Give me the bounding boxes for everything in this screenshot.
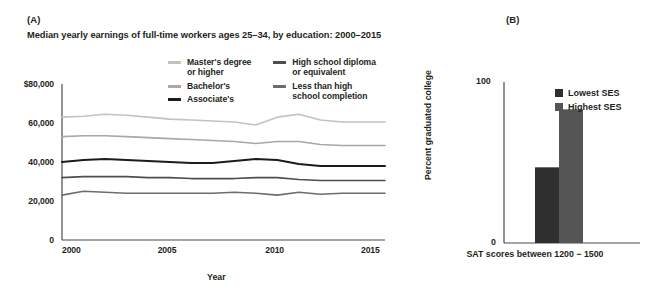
chart-a-ytick-20000: 20,000 [2, 196, 54, 206]
chart-a-svg [0, 0, 400, 292]
legend-item-lowest-ses: Lowest SES [555, 88, 622, 98]
chart-a-plot-area: $80,000 60,000 40,000 20,000 0 2000 2005… [0, 0, 400, 292]
legend-item-highest-ses: Highest SES [555, 102, 622, 112]
chart-b-ytick-100: 100 [476, 76, 491, 86]
legend-swatch-highest-ses-square-icon [555, 103, 563, 111]
chart-b-ytick-0: 0 [491, 237, 496, 247]
chart-a-ytick-40000: 40,000 [2, 157, 54, 167]
chart-a-ytick-80000: $80,000 [2, 79, 54, 89]
chart-a-ytick-60000: 60,000 [2, 118, 54, 128]
chart-a-ytick-0: 0 [2, 235, 54, 245]
chart-a-xtick-2000: 2000 [62, 245, 81, 255]
chart-b-legend: Lowest SES Highest SES [555, 88, 622, 112]
legend-label-highest-ses: Highest SES [568, 102, 622, 112]
chart-a-xaxis-title: Year [207, 272, 226, 282]
chart-a-xtick-2015: 2015 [361, 245, 380, 255]
chart-a-xtick-2010: 2010 [265, 245, 284, 255]
chart-b-plot-area: Percent graduated college 100 0 SAT scor… [400, 0, 658, 292]
legend-label-lowest-ses: Lowest SES [568, 88, 620, 98]
chart-b-xaxis-title: SAT scores between 1200 − 1500 [460, 248, 610, 260]
chart-a-xtick-2005: 2005 [158, 245, 177, 255]
chart-b-yaxis-title: Percent graduated college [423, 60, 433, 190]
legend-swatch-lowest-ses-square-icon [555, 89, 563, 97]
